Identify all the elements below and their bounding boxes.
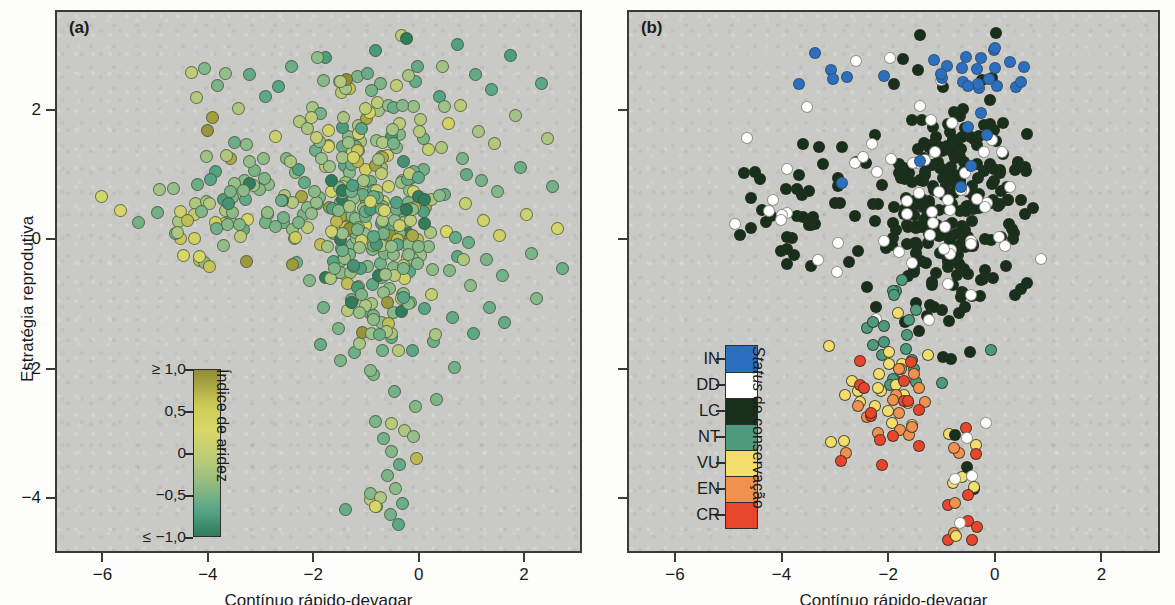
scatter-point <box>888 78 900 90</box>
scatter-point <box>535 77 548 90</box>
scatter-point <box>464 279 477 292</box>
scatter-point <box>551 222 564 235</box>
scatter-point <box>259 90 272 103</box>
scatter-point <box>803 185 815 197</box>
colorbar-tick <box>185 369 193 371</box>
scatter-point <box>206 111 219 124</box>
scatter-point <box>188 232 201 245</box>
scatter-point <box>975 274 987 286</box>
scatter-point <box>201 124 214 137</box>
scatter-point <box>191 178 204 191</box>
scatter-point <box>1004 181 1016 193</box>
scatter-point <box>997 117 1009 129</box>
scatter-point <box>381 296 394 309</box>
scatter-point <box>378 204 391 217</box>
scatter-point <box>353 241 366 254</box>
scatter-point <box>472 125 485 138</box>
scatter-point <box>898 375 910 387</box>
scatter-point <box>376 344 389 357</box>
scatter-point <box>480 253 493 266</box>
x-axis-tick-label: −4 <box>198 565 217 585</box>
scatter-point <box>866 138 878 150</box>
scatter-point <box>355 122 368 135</box>
scatter-point <box>852 400 864 412</box>
scatter-point <box>339 503 352 516</box>
scatter-point <box>950 530 962 542</box>
scatter-point <box>493 229 506 242</box>
scatter-point <box>530 292 543 305</box>
figure-container: (a) ≥ 1,00,50−0,5≤ −1,0 Índice de aridez… <box>0 0 1175 605</box>
scatter-point <box>520 208 533 221</box>
scatter-point <box>903 314 915 326</box>
scatter-point <box>912 64 924 76</box>
scatter-point <box>477 214 490 227</box>
scatter-point <box>375 167 388 180</box>
colorbar-tick-label: 0,5 <box>164 402 186 420</box>
colorbar-tick-label: 0 <box>177 444 186 462</box>
scatter-point <box>1018 61 1030 73</box>
scatter-point <box>930 131 942 143</box>
scatter-point <box>812 254 824 266</box>
scatter-point <box>871 166 883 178</box>
scatter-point <box>914 174 926 186</box>
scatter-point <box>365 84 378 97</box>
scatter-point <box>509 109 522 122</box>
scatter-point <box>556 262 569 275</box>
scatter-point <box>114 204 127 217</box>
scatter-point <box>975 52 987 64</box>
x-axis-tick-label: 0 <box>414 565 423 585</box>
x-axis-tick-label: −2 <box>878 565 897 585</box>
scatter-point <box>195 205 208 218</box>
scatter-point <box>361 67 374 80</box>
scatter-point <box>269 130 282 143</box>
scatter-point <box>436 60 449 73</box>
scatter-point <box>396 99 409 112</box>
scatter-point <box>914 29 926 41</box>
scatter-point <box>878 235 890 247</box>
scatter-point <box>964 346 976 358</box>
scatter-point <box>411 257 424 270</box>
x-axis-title: Contínuo rápido-devagar <box>799 591 987 605</box>
scatter-point <box>841 71 853 83</box>
scatter-point <box>896 274 908 286</box>
scatter-point <box>893 363 905 375</box>
scatter-point <box>905 356 917 368</box>
x-axis-tick <box>994 553 996 562</box>
scatter-point <box>177 249 190 262</box>
scatter-point <box>926 206 938 218</box>
scatter-point <box>884 52 896 64</box>
scatter-point <box>393 458 406 471</box>
scatter-point <box>834 197 846 209</box>
scatter-point <box>989 42 1001 54</box>
scatter-point <box>219 67 232 80</box>
scatter-point <box>347 259 360 272</box>
scatter-point <box>498 316 511 329</box>
y-axis-tick <box>618 238 627 240</box>
scatter-point <box>305 111 318 124</box>
status-legend-title: Status de conservação <box>749 346 767 509</box>
scatter-point <box>876 179 888 191</box>
scatter-point <box>791 183 803 195</box>
scatter-point <box>475 174 488 187</box>
scatter-point <box>836 141 848 153</box>
scatter-point <box>978 146 990 158</box>
scatter-point <box>873 368 885 380</box>
scatter-point <box>981 129 993 141</box>
scatter-point <box>1035 253 1047 265</box>
scatter-point <box>971 193 983 205</box>
scatter-point <box>817 158 829 170</box>
scatter-point <box>869 215 881 227</box>
scatter-point <box>1015 194 1027 206</box>
x-axis-tick <box>674 553 676 562</box>
scatter-point <box>849 210 861 222</box>
scatter-point <box>385 445 398 458</box>
scatter-point <box>449 231 462 244</box>
scatter-point <box>883 346 895 358</box>
scatter-point <box>389 482 402 495</box>
scatter-point <box>385 417 398 430</box>
scatter-point <box>741 132 753 144</box>
scatter-point <box>990 27 1002 39</box>
scatter-point <box>913 382 925 394</box>
scatter-point <box>944 204 956 216</box>
scatter-point <box>305 207 318 220</box>
